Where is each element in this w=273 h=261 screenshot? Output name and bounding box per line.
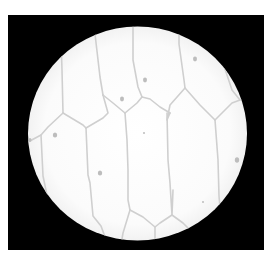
nucleus <box>235 157 239 163</box>
nucleus <box>143 78 147 83</box>
nucleus <box>98 170 102 175</box>
nucleus <box>29 138 32 142</box>
microscope-field-svg <box>0 0 273 261</box>
nucleus <box>120 97 124 102</box>
nucleus <box>193 57 197 62</box>
nucleus <box>202 201 204 203</box>
nucleus <box>53 132 57 137</box>
nucleus <box>143 132 145 134</box>
